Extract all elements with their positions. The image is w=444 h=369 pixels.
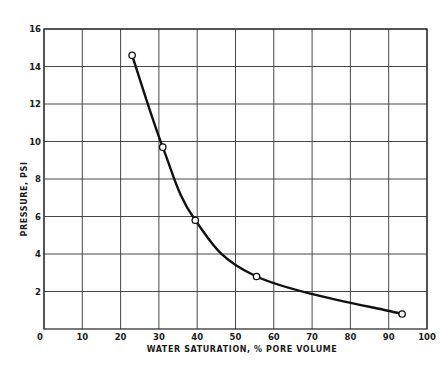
y-tick-labels: 246810121416 <box>29 24 41 297</box>
x-tick-label: 10 <box>76 332 88 342</box>
x-tick-label: 50 <box>230 332 242 342</box>
data-point-marker <box>399 311 405 317</box>
y-axis-label: PRESSURE, PSI <box>20 162 29 237</box>
grid-lines <box>44 29 427 329</box>
y-tick-label: 12 <box>29 99 41 109</box>
capillary-pressure-chart: 0102030405060708090100 246810121416 WATE… <box>0 0 444 369</box>
data-curve <box>132 55 402 314</box>
x-tick-label: 80 <box>344 332 356 342</box>
y-tick-label: 14 <box>29 62 41 72</box>
x-tick-label: 30 <box>153 332 165 342</box>
y-tick-label: 2 <box>35 287 41 297</box>
x-tick-label: 60 <box>268 332 280 342</box>
data-point-marker <box>192 217 198 223</box>
x-tick-label: 100 <box>418 332 436 342</box>
data-point-marker <box>160 144 166 150</box>
x-tick-labels: 0102030405060708090100 <box>37 332 436 342</box>
y-tick-label: 8 <box>35 174 41 184</box>
data-markers <box>129 52 405 317</box>
x-tick-label: 40 <box>191 332 203 342</box>
x-tick-label: 0 <box>37 332 43 342</box>
data-point-marker <box>129 52 135 58</box>
y-tick-label: 16 <box>29 24 41 34</box>
x-tick-label: 90 <box>383 332 395 342</box>
x-tick-label: 70 <box>306 332 318 342</box>
data-point-marker <box>253 273 259 279</box>
y-tick-label: 10 <box>29 137 41 147</box>
x-axis-label: WATER SATURATION, % PORE VOLUME <box>147 345 338 354</box>
x-tick-label: 20 <box>115 332 127 342</box>
y-tick-label: 6 <box>35 212 41 222</box>
y-tick-label: 4 <box>35 249 41 259</box>
